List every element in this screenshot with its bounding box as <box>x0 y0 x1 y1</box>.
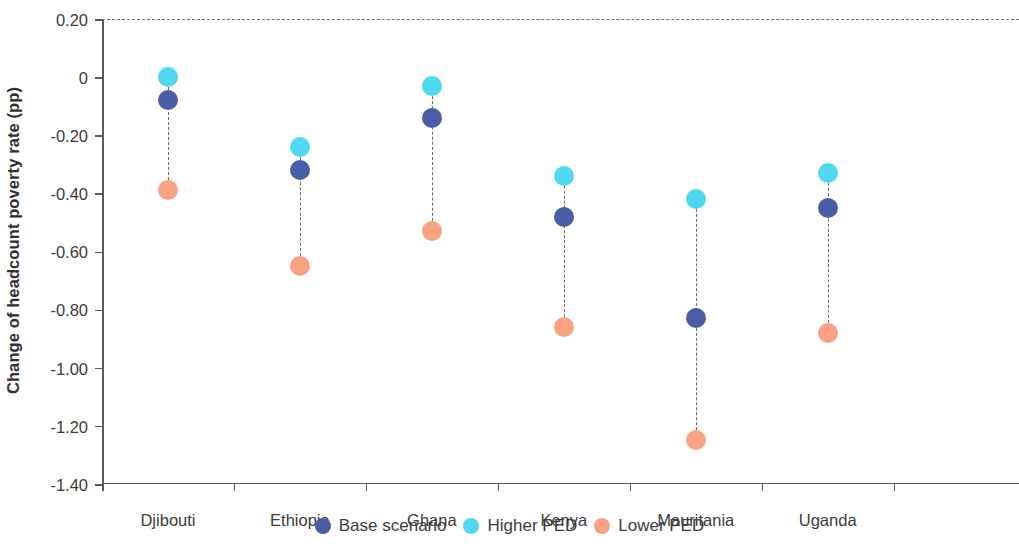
y-axis-tick: -0.20 <box>95 135 102 137</box>
y-axis-tick: -1.00 <box>95 368 102 370</box>
y-axis-tick-label: 0.20 <box>56 10 88 29</box>
data-point-marker <box>422 76 442 96</box>
legend-item[interactable]: Base scenario <box>315 516 447 536</box>
x-axis-tick <box>498 484 500 491</box>
data-point-marker <box>290 160 310 180</box>
y-axis-tick: -1.20 <box>95 426 102 428</box>
y-axis-title-text: Change of headcount poverty rate (pp) <box>5 86 24 393</box>
legend-label: Base scenario <box>339 516 447 536</box>
y-axis-tick-label: -0.40 <box>50 185 88 204</box>
legend-item[interactable]: Lower PED <box>594 516 704 536</box>
y-axis-line <box>102 19 104 484</box>
x-axis-tick <box>366 484 368 491</box>
data-point-marker <box>686 189 706 209</box>
data-point-marker <box>818 198 838 218</box>
data-point-marker <box>290 137 310 157</box>
legend-label: Lower PED <box>618 516 704 536</box>
y-axis-tick: -0.40 <box>95 193 102 195</box>
y-axis-tick: 0.20 <box>95 19 102 21</box>
y-axis-tick: -0.60 <box>95 252 102 254</box>
y-axis-title: Change of headcount poverty rate (pp) <box>0 0 28 480</box>
x-axis-tick <box>630 484 632 491</box>
x-axis-tick <box>234 484 236 491</box>
x-axis-tick <box>894 484 896 491</box>
y-axis-tick-label: -0.20 <box>50 127 88 146</box>
plot-area: 0.200-0.20-0.40-0.60-0.80-1.00-1.20-1.40… <box>102 19 1019 484</box>
y-axis-tick: -1.40 <box>95 484 102 486</box>
data-point-marker <box>290 256 310 276</box>
data-point-marker <box>554 166 574 186</box>
y-axis-tick: -0.80 <box>95 310 102 312</box>
legend-swatch-icon <box>594 518 610 534</box>
data-point-marker <box>686 430 706 450</box>
data-point-marker <box>554 317 574 337</box>
legend-swatch-icon <box>315 518 331 534</box>
y-axis-tick-label: -0.80 <box>50 301 88 320</box>
x-axis-tick <box>762 484 764 491</box>
y-axis-tick: 0 <box>95 77 102 79</box>
legend-swatch-icon <box>463 518 479 534</box>
chart-figure: Change of headcount poverty rate (pp) 0.… <box>0 0 1019 544</box>
x-axis-line <box>102 483 1019 485</box>
series-connector <box>564 176 565 327</box>
zero-reference-line <box>102 19 1019 20</box>
data-point-marker <box>158 67 178 87</box>
data-point-marker <box>554 207 574 227</box>
data-point-marker <box>158 180 178 200</box>
data-point-marker <box>686 308 706 328</box>
y-axis-tick-label: -1.20 <box>50 417 88 436</box>
y-axis-tick-label: -0.60 <box>50 243 88 262</box>
x-axis-tick <box>102 484 104 491</box>
data-point-marker <box>158 90 178 110</box>
data-point-marker <box>818 323 838 343</box>
legend-label: Higher PED <box>487 516 577 536</box>
data-point-marker <box>422 221 442 241</box>
y-axis-tick-label: -1.00 <box>50 359 88 378</box>
data-point-marker <box>818 163 838 183</box>
y-axis-tick-label: -1.40 <box>50 475 88 494</box>
data-point-marker <box>422 108 442 128</box>
chart-legend: Base scenarioHigher PEDLower PED <box>0 516 1019 536</box>
y-axis-tick-label: 0 <box>79 68 88 87</box>
legend-item[interactable]: Higher PED <box>463 516 577 536</box>
